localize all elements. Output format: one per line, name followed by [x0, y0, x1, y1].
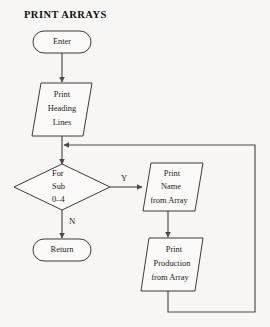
- decision-line3: 0–4: [52, 195, 65, 204]
- enter-label: Enter: [53, 37, 71, 46]
- branch-label-no: N: [69, 216, 76, 226]
- node-print-name[interactable]: Print Name from Array: [143, 163, 203, 211]
- node-print-production[interactable]: Print Production from Array: [141, 238, 203, 291]
- flowchart-svg: Enter Print Heading Lines For Sub 0–4 Y …: [0, 0, 270, 327]
- print-production-line3: from Array: [151, 273, 189, 282]
- print-name-line1: Print: [164, 169, 181, 178]
- node-print-heading[interactable]: Print Heading Lines: [32, 83, 92, 136]
- node-decision[interactable]: For Sub 0–4: [14, 164, 110, 210]
- print-production-line1: Print: [166, 245, 183, 254]
- node-return[interactable]: Return: [33, 239, 91, 261]
- return-label: Return: [51, 245, 75, 254]
- flowchart-canvas: PRINT ARRAYS Enter: [0, 0, 270, 327]
- decision-line1: For: [52, 169, 64, 178]
- decision-line2: Sub: [52, 182, 65, 191]
- print-heading-line3: Lines: [53, 118, 72, 127]
- print-heading-line1: Print: [54, 90, 71, 99]
- print-name-line3: from Array: [150, 196, 188, 205]
- node-enter[interactable]: Enter: [33, 31, 91, 53]
- branch-label-yes: Y: [121, 173, 127, 183]
- print-production-line2: Production: [154, 259, 192, 268]
- print-heading-line2: Heading: [48, 104, 77, 113]
- print-name-line2: Name: [161, 182, 181, 191]
